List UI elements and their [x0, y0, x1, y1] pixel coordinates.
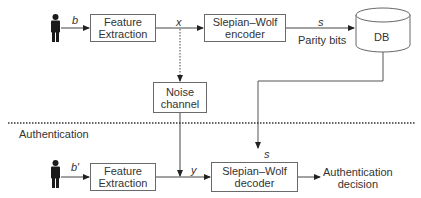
biometric-b-label: b: [72, 14, 78, 26]
syndrome-s-label-auth: s: [264, 148, 270, 160]
box-label: Slepian–Wolf: [213, 16, 278, 28]
syndrome-s-label: s: [318, 16, 324, 28]
noise-channel-box: Noisechannel: [153, 82, 207, 113]
box-label: Feature: [99, 165, 148, 177]
authentication-section-label: Authentication: [19, 128, 89, 140]
box-label: Extraction: [99, 177, 148, 189]
box-label: encoder: [213, 28, 278, 40]
feature-extraction-box: FeatureExtraction: [90, 14, 156, 42]
box-label: decoder: [222, 177, 287, 189]
box-label: Noise: [161, 86, 200, 98]
slepian-wolf-encoder-box: Slepian–Wolfencoder: [204, 14, 286, 42]
feature-x-label: x: [176, 16, 182, 28]
database-cylinder-icon: [356, 8, 410, 52]
database-label: DB: [374, 31, 389, 43]
slepian-wolf-decoder-box: Slepian–Wolfdecoder: [211, 162, 298, 192]
box-label: Slepian–Wolf: [222, 165, 287, 177]
feature-extraction-box-auth: FeatureExtraction: [90, 163, 156, 191]
parity-bits-label: Parity bits: [298, 34, 346, 46]
decision-line: decision: [323, 178, 393, 190]
authentication-decision-label: Authentication decision: [323, 166, 393, 190]
box-label: channel: [161, 98, 200, 110]
feature-y-label: y: [191, 164, 197, 176]
box-label: Extraction: [99, 28, 148, 40]
person-icon: [51, 14, 60, 42]
person-icon: [51, 160, 60, 188]
box-label: Feature: [99, 16, 148, 28]
biometric-b-prime-label: b′: [71, 161, 79, 173]
decision-line: Authentication: [323, 166, 393, 178]
